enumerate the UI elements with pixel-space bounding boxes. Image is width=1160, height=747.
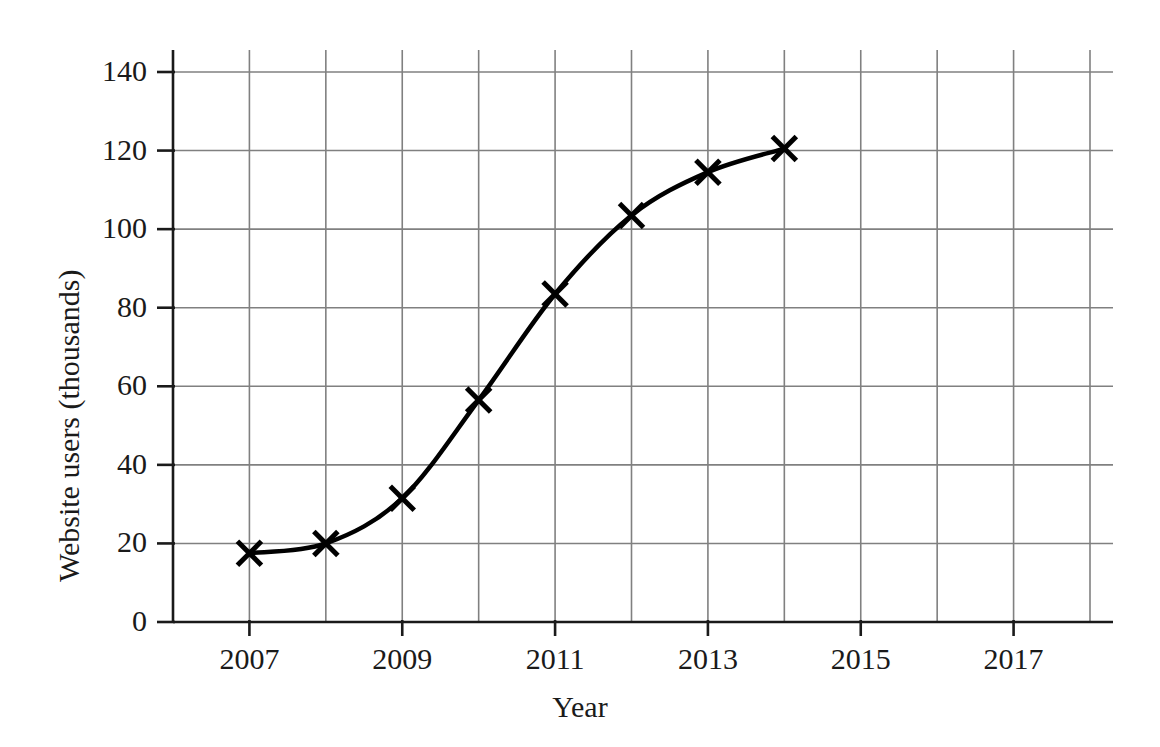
y-tick-label-20: 20 bbox=[27, 527, 147, 557]
line-chart: 020406080100120140 200720092011201320152… bbox=[0, 0, 1160, 747]
x-tick-label-2013: 2013 bbox=[638, 644, 778, 674]
y-tick-label-100: 100 bbox=[27, 213, 147, 243]
y-tick-label-40: 40 bbox=[27, 449, 147, 479]
x-tick-label-2015: 2015 bbox=[791, 644, 931, 674]
y-tick-label-0: 0 bbox=[27, 606, 147, 636]
x-tick-label-2009: 2009 bbox=[332, 644, 472, 674]
x-tick-label-2011: 2011 bbox=[485, 644, 625, 674]
x-tick-label-2007: 2007 bbox=[179, 644, 319, 674]
x-axis-title: Year bbox=[0, 690, 1160, 724]
y-tick-label-140: 140 bbox=[27, 56, 147, 86]
axis-lines bbox=[173, 50, 1113, 622]
y-tick-label-60: 60 bbox=[27, 370, 147, 400]
y-tick-label-120: 120 bbox=[27, 135, 147, 165]
data-line-curve bbox=[249, 149, 784, 554]
data-point-markers bbox=[237, 137, 796, 566]
x-tick-label-2017: 2017 bbox=[944, 644, 1084, 674]
vertical-gridlines bbox=[173, 50, 1090, 622]
chart-plot-area bbox=[0, 0, 1160, 747]
y-axis-title: Website users (thousands) bbox=[52, 269, 86, 582]
horizontal-gridlines bbox=[173, 72, 1113, 543]
y-tick-label-80: 80 bbox=[27, 292, 147, 322]
